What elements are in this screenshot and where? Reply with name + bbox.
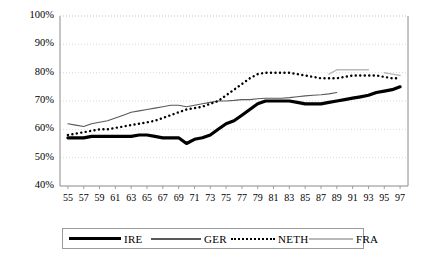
legend-label: GER — [204, 233, 227, 245]
legend-swatch-ger-icon — [151, 238, 201, 240]
series-line-ger — [68, 93, 337, 127]
legend-label: FRA — [356, 233, 378, 245]
line-chart: 100%90%80%70%60%50%40% 55575961636567697… — [0, 0, 426, 260]
series-line-neth — [68, 73, 400, 135]
legend-label: IRE — [124, 233, 143, 245]
legend-item-ger[interactable]: GER — [151, 229, 227, 248]
legend-swatch-ire-icon — [69, 237, 121, 240]
legend-swatch-fra-icon — [309, 238, 353, 240]
series-line-ire — [68, 87, 400, 144]
plot-area — [0, 0, 426, 260]
chart-legend: IREGERNETHFRA — [62, 228, 364, 249]
series-line-fra — [329, 70, 369, 74]
legend-item-ire[interactable]: IRE — [69, 229, 143, 248]
legend-swatch-neth-icon — [231, 238, 275, 240]
legend-item-fra[interactable]: FRA — [309, 229, 378, 248]
legend-label: NETH — [278, 233, 309, 245]
legend-item-neth[interactable]: NETH — [231, 229, 309, 248]
series-line-fra — [384, 73, 400, 76]
